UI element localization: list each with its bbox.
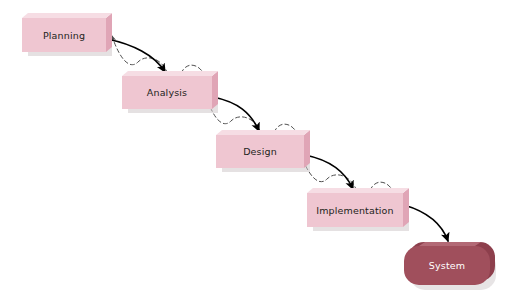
design-box-side xyxy=(304,130,310,168)
planning-box-label: Planning xyxy=(43,30,85,41)
analysis-box-label: Analysis xyxy=(147,87,187,98)
implementation-box-side xyxy=(403,188,409,227)
design-box-label: Design xyxy=(243,146,277,157)
forward-arrow-design-to-implementation xyxy=(305,155,353,189)
design-box-top-bevel xyxy=(216,130,310,135)
stage-box-system[interactable]: System xyxy=(404,242,496,290)
waterfall-diagram-canvas: Planning Analysis Design Implementation xyxy=(0,0,514,297)
analysis-box-top-bevel xyxy=(122,71,218,76)
implementation-box-top-bevel xyxy=(307,188,409,193)
analysis-box-side xyxy=(212,71,218,109)
planning-box-top-bevel xyxy=(22,13,112,18)
system-box-label: System xyxy=(429,260,465,271)
stage-box-planning[interactable]: Planning xyxy=(22,13,112,56)
forward-arrow-implementation-to-system xyxy=(404,205,448,241)
forward-arrow-planning-to-analysis xyxy=(107,39,165,72)
stage-box-implementation[interactable]: Implementation xyxy=(307,188,409,231)
forward-arrow-analysis-to-design xyxy=(213,97,259,131)
stage-box-design[interactable]: Design xyxy=(216,130,310,172)
stage-box-analysis[interactable]: Analysis xyxy=(122,71,218,113)
waterfall-diagram: Planning Analysis Design Implementation xyxy=(0,0,514,297)
implementation-box-label: Implementation xyxy=(316,205,394,216)
system-box-top-bevel xyxy=(419,242,481,246)
planning-box-side xyxy=(106,13,112,52)
